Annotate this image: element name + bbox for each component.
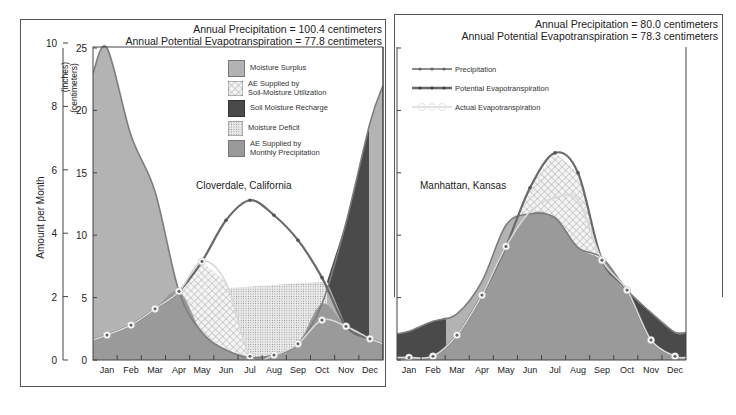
right-month-label: Dec <box>667 365 684 375</box>
left-month-label: Jul <box>244 365 256 375</box>
left-legend: Moisture Surplus AE Supplied bySoil-Mois… <box>228 60 378 157</box>
right-month-label: Feb <box>425 365 441 375</box>
legend-item-monthly: AE Supplied byMonthly Precipitation <box>228 140 378 157</box>
right-month-label: Jan <box>402 365 417 375</box>
legend-swatch-surplus <box>228 60 245 77</box>
legend-item-soil-util: AE Supplied bySoil-Moisture Utilization <box>228 80 378 97</box>
left-month-label: Nov <box>338 365 355 375</box>
cm-tick-label: 15 <box>76 168 88 179</box>
precipitation-line-icon <box>412 65 452 73</box>
inch-tick-label: 2 <box>51 292 57 303</box>
right-month-label: Jul <box>549 365 561 375</box>
legend-item-pe: Potential Evapotranspiration <box>412 83 549 93</box>
right-month-label: Aug <box>570 365 586 375</box>
cm-tick-label: 5 <box>81 293 87 304</box>
left-month-label: Jan <box>100 365 115 375</box>
inch-tick-label: 0 <box>51 355 57 366</box>
inch-tick-label: 4 <box>51 228 57 239</box>
left-month-label: Aug <box>266 365 282 375</box>
cm-tick-label: 0 <box>81 355 87 366</box>
left-month-label: Oct <box>315 365 330 375</box>
legend-item-recharge: Soil Moisture Recharge <box>228 100 378 117</box>
right-legend: Precipitation Potential Evapotranspirati… <box>412 64 549 112</box>
left-month-label: May <box>193 365 211 375</box>
left-month-label: Jun <box>219 365 234 375</box>
right-month-label: Mar <box>449 365 465 375</box>
inch-tick-label: 8 <box>51 101 57 112</box>
legend-item-ae: Actual Evapotranspiration <box>412 102 549 112</box>
right-month-label: Oct <box>620 365 635 375</box>
inch-tick-label: 6 <box>51 165 57 176</box>
right-month-label: Nov <box>643 365 660 375</box>
ae-line-icon <box>412 103 452 111</box>
station-label-manhattan: Manhattan, Kansas <box>420 180 506 191</box>
legend-swatch-recharge <box>228 100 245 117</box>
right-month-label: Sep <box>594 365 610 375</box>
legend-swatch-monthly <box>228 140 245 157</box>
pe-line-icon <box>412 84 452 92</box>
station-label-cloverdale: Cloverdale, California <box>196 180 292 191</box>
legend-item-deficit: Moisture Deficit <box>228 120 378 137</box>
left-month-label: Sep <box>290 365 306 375</box>
y-axis-label: Amount per Month <box>35 168 46 268</box>
left-month-label: Feb <box>123 365 139 375</box>
cm-tick-label: 10 <box>76 230 88 241</box>
cm-label: (centimeters) <box>69 53 79 123</box>
legend-swatch-deficit <box>228 121 243 136</box>
left-month-label: Dec <box>362 365 379 375</box>
inch-tick-label: 10 <box>46 38 58 49</box>
legend-swatch-soil-util <box>228 81 243 96</box>
left-month-label: Apr <box>172 365 186 375</box>
right-month-label: May <box>497 365 515 375</box>
legend-item-precipitation: Precipitation <box>412 64 549 74</box>
right-month-label: Jun <box>523 365 538 375</box>
legend-item-surplus: Moisture Surplus <box>228 60 378 77</box>
right-month-label: Apr <box>475 365 489 375</box>
left-month-label: Mar <box>147 365 163 375</box>
